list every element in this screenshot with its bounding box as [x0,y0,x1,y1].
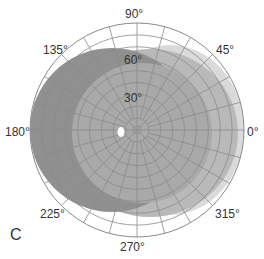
angle-label: 180° [5,126,30,138]
eccentricity-label: 60° [124,54,142,66]
angle-label: 315° [215,208,240,220]
angle-label: 270° [120,241,145,253]
panel-label: C [10,226,22,244]
eccentricity-label: 30° [124,92,142,104]
angle-label: 45° [216,44,234,56]
angle-label: 90° [125,8,143,20]
angle-label: 0° [247,126,258,138]
polar-visual-field-diagram: 90°45°0°315°270°225°180°135°30°60° C [0,0,264,259]
angle-label: 225° [40,208,65,220]
blind-spot [118,127,125,137]
angle-label: 135° [43,44,68,56]
